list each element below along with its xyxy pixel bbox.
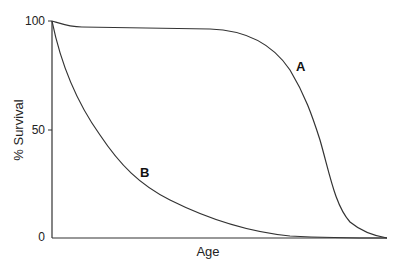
x-axis-label: Age — [196, 244, 219, 259]
curve-b — [52, 21, 387, 238]
curve-a — [52, 21, 387, 238]
y-tick-label-50: 50 — [32, 123, 46, 137]
y-tick-label-0: 0 — [38, 230, 45, 244]
y-tick-label-100: 100 — [25, 14, 45, 28]
survivorship-chart: 100 50 0 % Survival Age A B — [0, 0, 399, 273]
curve-a-label: A — [296, 59, 306, 74]
y-axis-label: % Survival — [11, 99, 26, 161]
curve-b-label: B — [140, 165, 149, 180]
